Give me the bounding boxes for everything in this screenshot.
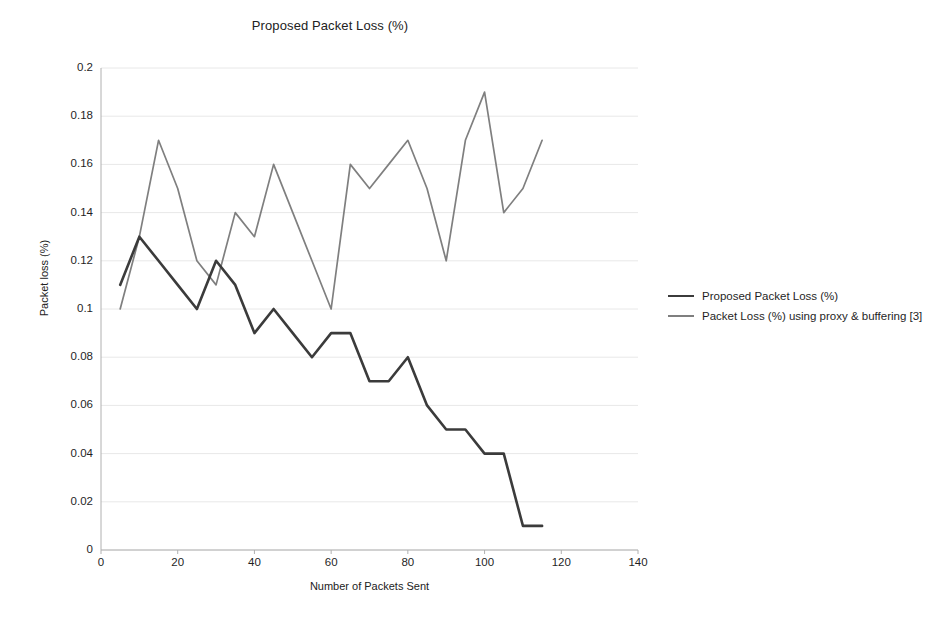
x-axis-tick-label-text: 80 <box>383 556 433 568</box>
legend-item[interactable]: Packet Loss (%) using proxy & buffering … <box>668 306 948 326</box>
x-axis-tick-label-text: 40 <box>229 556 279 568</box>
x-axis-tick-label: 0 <box>76 556 126 570</box>
y-axis-tick-label-text: 0.02 <box>71 495 93 507</box>
x-axis-tick-label-text: 20 <box>153 556 203 568</box>
x-axis-tick-label-text: 120 <box>536 556 586 568</box>
series-line-proposed <box>120 237 542 526</box>
chart-legend: Proposed Packet Loss (%)Packet Loss (%) … <box>668 286 948 326</box>
y-axis-tick-label-text: 0.08 <box>71 350 93 362</box>
y-axis-tick-label: 0 <box>50 543 93 557</box>
y-axis-tick-label: 0.14 <box>50 206 93 220</box>
chart-title: Proposed Packet Loss (%) <box>0 18 660 33</box>
y-axis-tick-label: 0.02 <box>50 495 93 509</box>
x-axis-tick-label: 60 <box>306 556 356 570</box>
legend-item[interactable]: Proposed Packet Loss (%) <box>668 286 948 306</box>
y-axis-tick-label-text: 0.14 <box>71 206 93 218</box>
y-axis-tick-label-text: 0.06 <box>71 398 93 410</box>
y-axis-tick-label: 0.1 <box>50 302 93 316</box>
x-axis-tick-label: 100 <box>460 556 510 570</box>
y-axis-tick-label: 0.08 <box>50 350 93 364</box>
y-axis-tick-label: 0.04 <box>50 447 93 461</box>
x-axis-tick-label-text: 100 <box>460 556 510 568</box>
line-chart-canvas <box>101 68 638 550</box>
y-axis-tick-label-text: 0.04 <box>71 447 93 459</box>
y-axis-tick-label: 0.12 <box>50 254 93 268</box>
y-axis-tick-label: 0.06 <box>50 398 93 412</box>
x-axis-tick-label-text: 0 <box>76 556 126 568</box>
y-axis-tick-label: 0.16 <box>50 157 93 171</box>
x-axis-tick-label: 140 <box>613 556 663 570</box>
x-axis-tick-label: 20 <box>153 556 203 570</box>
x-axis-tick-label-text: 60 <box>306 556 356 568</box>
legend-line-swatch-icon <box>668 315 694 317</box>
plot-area <box>101 68 638 550</box>
series-line-proxy-buffering <box>120 92 542 309</box>
y-axis-tick-label-text: 0.16 <box>71 157 93 169</box>
y-axis-tick-label-text: 0.12 <box>71 254 93 266</box>
x-axis-tick-label: 80 <box>383 556 433 570</box>
x-axis-tick-label: 120 <box>536 556 586 570</box>
x-axis-tick-label: 40 <box>229 556 279 570</box>
y-axis-tick-label-text: 0 <box>87 543 93 555</box>
x-axis-tick-label-text: 140 <box>613 556 663 568</box>
chart-figure: Proposed Packet Loss (%) Packet loss (%)… <box>0 0 952 624</box>
y-axis-tick-label: 0.18 <box>50 109 93 123</box>
y-axis-tick-label: 0.2 <box>50 61 93 75</box>
legend-item-label: Packet Loss (%) using proxy & buffering … <box>702 310 922 322</box>
y-axis-tick-label-text: 0.1 <box>77 302 93 314</box>
x-axis-title: Number of Packets Sent <box>101 580 638 592</box>
y-axis-tick-label-text: 0.18 <box>71 109 93 121</box>
y-axis-title: Packet loss (%) <box>38 208 50 348</box>
legend-item-label: Proposed Packet Loss (%) <box>702 290 838 302</box>
legend-line-swatch-icon <box>668 295 694 297</box>
y-axis-tick-label-text: 0.2 <box>77 61 93 73</box>
